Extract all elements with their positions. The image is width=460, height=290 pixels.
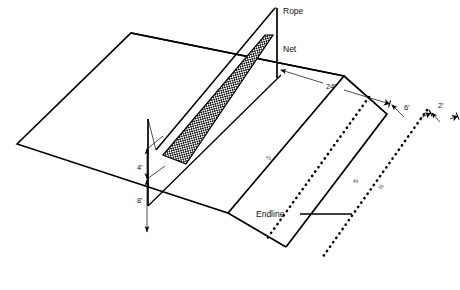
rope-label: Rope xyxy=(283,6,304,16)
fraction-zone-a: ⅔ xyxy=(353,178,358,184)
dim-6-leader-right xyxy=(420,113,431,118)
rope-label-group: Rope xyxy=(283,6,304,16)
dotted-line-outer xyxy=(322,110,427,258)
dim-6-label: 6' xyxy=(404,103,410,112)
dim-24-label: 24' xyxy=(326,82,336,91)
court-surface xyxy=(17,33,344,213)
dim-4-label: 4' xyxy=(137,163,143,172)
dim-6-leader-left xyxy=(392,105,404,117)
dim-2-leader-left xyxy=(432,113,440,122)
dimension-8ft: 8' xyxy=(137,180,147,232)
fraction-zone-b: ½ xyxy=(377,183,385,191)
endline-label-group: Endline xyxy=(256,209,352,219)
endline-label: Endline xyxy=(256,209,285,219)
court-outline xyxy=(17,33,344,213)
dim-2-label: 2' xyxy=(438,101,444,110)
dim-24-leader-left xyxy=(281,70,323,83)
court-diagram-container: Rope Net 24' 6' 2' 4' xyxy=(0,0,460,290)
net-label: Net xyxy=(283,44,297,54)
zone-six-outer-edge xyxy=(286,76,387,247)
dimension-6ft: 6' xyxy=(392,103,431,118)
rope-line xyxy=(156,8,275,150)
dim-4-ext-bottom xyxy=(147,166,165,179)
fraction-center-court: ½ xyxy=(266,155,271,161)
dimension-2ft: 2' xyxy=(432,101,458,122)
net-assembly xyxy=(148,8,281,206)
dim-8-label: 8' xyxy=(137,196,143,205)
court-diagram-canvas: Rope Net 24' 6' 2' 4' xyxy=(0,0,460,290)
dim-2-leader-right xyxy=(450,116,458,119)
net-label-group: Net xyxy=(283,44,297,54)
court-right-zones xyxy=(228,76,387,247)
dotted-boundaries xyxy=(266,97,427,258)
fraction-annotations: ½ ⅔ ½ xyxy=(266,155,385,191)
dimension-4ft: 4' xyxy=(137,136,165,179)
